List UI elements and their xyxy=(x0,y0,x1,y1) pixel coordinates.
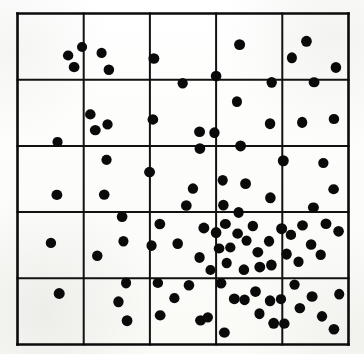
data-point xyxy=(117,212,128,222)
data-point xyxy=(172,238,183,249)
data-point xyxy=(209,127,219,138)
data-point xyxy=(334,289,344,300)
data-point xyxy=(198,223,209,234)
data-point xyxy=(276,294,286,304)
data-point xyxy=(265,118,275,129)
data-point xyxy=(317,311,327,322)
data-point xyxy=(52,137,62,147)
data-point xyxy=(154,219,165,230)
data-point xyxy=(69,62,80,72)
data-point xyxy=(153,278,163,288)
data-point xyxy=(211,227,222,238)
data-point xyxy=(267,77,277,88)
data-point xyxy=(104,65,115,75)
data-point xyxy=(220,219,231,229)
data-point xyxy=(211,71,222,82)
data-point xyxy=(214,244,225,254)
data-point xyxy=(122,315,133,326)
data-point xyxy=(250,286,261,297)
data-point xyxy=(148,114,159,124)
data-point xyxy=(321,218,332,229)
data-point xyxy=(102,119,112,129)
data-point xyxy=(329,324,340,335)
data-point xyxy=(144,167,155,177)
data-point xyxy=(333,226,344,237)
data-point xyxy=(146,240,156,251)
data-point xyxy=(242,235,252,245)
data-point xyxy=(331,62,341,73)
data-point xyxy=(316,249,326,260)
data-point xyxy=(329,114,340,124)
data-point xyxy=(225,242,235,252)
data-point xyxy=(169,293,179,303)
quadrat-grid xyxy=(18,14,349,345)
data-point xyxy=(101,155,111,165)
data-point xyxy=(235,140,246,151)
data-point xyxy=(264,236,274,247)
data-point xyxy=(77,42,87,52)
data-point xyxy=(184,280,195,290)
scatter-plot-canvas: Clustered point pattern with 5 by 5 quad… xyxy=(0,0,364,354)
data-point xyxy=(307,291,318,301)
data-points-layer xyxy=(46,36,345,338)
data-point xyxy=(234,39,245,50)
data-point xyxy=(46,238,56,248)
data-point xyxy=(219,327,230,337)
data-point xyxy=(281,249,291,260)
data-point xyxy=(254,262,265,273)
data-point xyxy=(188,183,198,193)
data-point xyxy=(222,258,232,269)
data-point xyxy=(254,308,264,319)
data-point xyxy=(203,312,213,322)
data-point xyxy=(276,223,287,234)
data-point xyxy=(99,189,110,199)
data-point xyxy=(113,296,123,307)
data-point xyxy=(265,295,275,306)
data-point xyxy=(232,96,242,107)
data-point xyxy=(216,278,227,289)
plot-frame xyxy=(18,14,349,345)
data-point xyxy=(148,53,159,63)
data-point xyxy=(51,190,62,200)
data-point xyxy=(278,155,289,166)
data-point xyxy=(90,125,101,135)
data-point xyxy=(318,158,328,168)
data-point xyxy=(287,52,297,63)
figure-root: Clustered point pattern with 5 by 5 quad… xyxy=(0,0,364,354)
data-point xyxy=(181,200,192,211)
data-point xyxy=(205,265,215,275)
data-point xyxy=(92,251,102,262)
data-point xyxy=(85,109,96,119)
data-point xyxy=(239,264,250,275)
data-point xyxy=(295,303,306,313)
data-point xyxy=(286,230,296,240)
data-point xyxy=(234,207,244,218)
data-point xyxy=(328,184,339,194)
data-point xyxy=(268,318,279,329)
data-point xyxy=(218,175,228,186)
data-point xyxy=(194,252,204,263)
data-point xyxy=(279,319,290,329)
data-point xyxy=(297,117,307,128)
data-point xyxy=(266,260,277,271)
data-point xyxy=(96,48,106,58)
data-point xyxy=(118,236,128,246)
data-point xyxy=(194,126,205,137)
data-point xyxy=(239,294,249,305)
data-point xyxy=(308,202,319,212)
data-point xyxy=(232,229,243,239)
data-point xyxy=(293,257,303,267)
data-point xyxy=(252,247,263,257)
data-point xyxy=(54,288,65,299)
data-point xyxy=(155,310,166,320)
data-point xyxy=(229,294,240,305)
data-point xyxy=(218,200,228,211)
data-point xyxy=(289,279,299,289)
data-point xyxy=(195,143,206,154)
data-point xyxy=(297,220,308,230)
data-point xyxy=(63,51,73,61)
data-point xyxy=(121,277,131,288)
data-point xyxy=(301,36,312,47)
data-point xyxy=(178,78,188,89)
data-point xyxy=(248,221,258,231)
